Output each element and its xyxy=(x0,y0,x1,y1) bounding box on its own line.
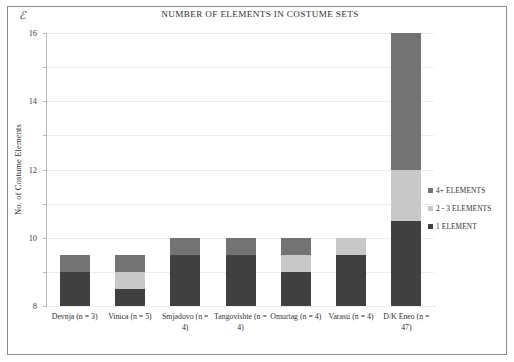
legend-item[interactable]: 4+ ELEMENTS xyxy=(428,186,506,195)
y-axis-tick: 8 xyxy=(43,170,47,171)
bar-stack[interactable] xyxy=(170,238,200,306)
legend-item[interactable]: 2 - 3 ELEMENTS xyxy=(428,204,506,213)
gridline xyxy=(47,101,434,102)
y-axis-tick: 6 xyxy=(43,204,47,205)
x-axis-label: Devnja (n = 3) xyxy=(48,311,101,322)
x-axis-label: Tangovishte (n = 4) xyxy=(214,311,267,333)
y-axis-tick: 12 xyxy=(43,101,47,102)
y-axis-title: No. of Costume Elements xyxy=(13,33,27,306)
y-axis-tick-label: 8 xyxy=(33,302,37,311)
y-axis-tick-label: 12 xyxy=(29,165,37,174)
bar-segment[interactable] xyxy=(115,289,145,306)
bar-segment[interactable] xyxy=(170,238,200,255)
x-axis-label: Varasti (n = 4) xyxy=(324,311,377,322)
bar-segment[interactable] xyxy=(60,255,90,272)
y-axis-tick: 10 xyxy=(43,135,47,136)
bar-stack[interactable] xyxy=(391,33,421,306)
bar-stack[interactable] xyxy=(115,255,145,306)
legend-item-label: 4+ ELEMENTS xyxy=(436,186,485,195)
legend-item[interactable]: 1 ELEMENT xyxy=(428,222,506,231)
bar-stack[interactable] xyxy=(281,238,311,306)
gridline xyxy=(47,170,434,171)
bar-stack[interactable] xyxy=(226,238,256,306)
bar-segment[interactable] xyxy=(281,255,311,272)
bar-segment[interactable] xyxy=(336,238,366,255)
y-axis-tick-label: 14 xyxy=(29,97,37,106)
y-axis-tick: 0 xyxy=(43,306,47,307)
bar-segment[interactable] xyxy=(170,255,200,306)
legend-swatch-icon xyxy=(428,206,433,211)
x-axis-label: Omurtag (n = 4) xyxy=(269,311,322,322)
bar-segment[interactable] xyxy=(281,272,311,306)
bar-segment[interactable] xyxy=(281,238,311,255)
bar-segment[interactable] xyxy=(115,255,145,272)
y-axis-tick-label: 16 xyxy=(29,29,37,38)
gridline xyxy=(47,135,434,136)
gridline xyxy=(47,33,434,34)
bar-segment[interactable] xyxy=(336,255,366,306)
y-axis-tick: 4 xyxy=(43,238,47,239)
y-axis-tick: 16 xyxy=(43,33,47,34)
y-axis-tick-label: 10 xyxy=(29,233,37,242)
y-axis-tick: 14 xyxy=(43,67,47,68)
bar-segment[interactable] xyxy=(391,221,421,306)
bar-segment[interactable] xyxy=(391,170,421,221)
gridline xyxy=(47,306,434,307)
gridline xyxy=(47,67,434,68)
bar-segment[interactable] xyxy=(60,272,90,306)
bar-segment[interactable] xyxy=(226,238,256,255)
x-axis-labels: Devnja (n = 3)Vinica (n = 5)Smjadovo (n … xyxy=(47,311,435,353)
bar-segment[interactable] xyxy=(391,33,421,170)
legend-item-label: 2 - 3 ELEMENTS xyxy=(436,204,491,213)
x-axis-label: D/K Eneo (n = 47) xyxy=(380,311,433,333)
chart-title: NUMBER OF ELEMENTS IN COSTUME SETS xyxy=(40,9,480,19)
bar-stack[interactable] xyxy=(60,255,90,306)
x-axis-label: Smjadovo (n = 4) xyxy=(159,311,212,333)
chart-figure: ℰ NUMBER OF ELEMENTS IN COSTUME SETS No.… xyxy=(0,0,514,362)
bar-segment[interactable] xyxy=(226,255,256,306)
legend-item-label: 1 ELEMENT xyxy=(436,222,477,231)
bar-stack[interactable] xyxy=(336,238,366,306)
legend-swatch-icon xyxy=(428,224,433,229)
gridline xyxy=(47,204,434,205)
plot-area: 0246810121416 xyxy=(47,33,434,306)
bar-segment[interactable] xyxy=(115,272,145,289)
chart-legend: 4+ ELEMENTS2 - 3 ELEMENTS1 ELEMENT xyxy=(428,186,506,240)
x-axis-label: Vinica (n = 5) xyxy=(103,311,156,322)
y-axis-tick: 2 xyxy=(43,272,47,273)
figure-corner-mark: ℰ xyxy=(19,9,26,22)
legend-swatch-icon xyxy=(428,188,433,193)
